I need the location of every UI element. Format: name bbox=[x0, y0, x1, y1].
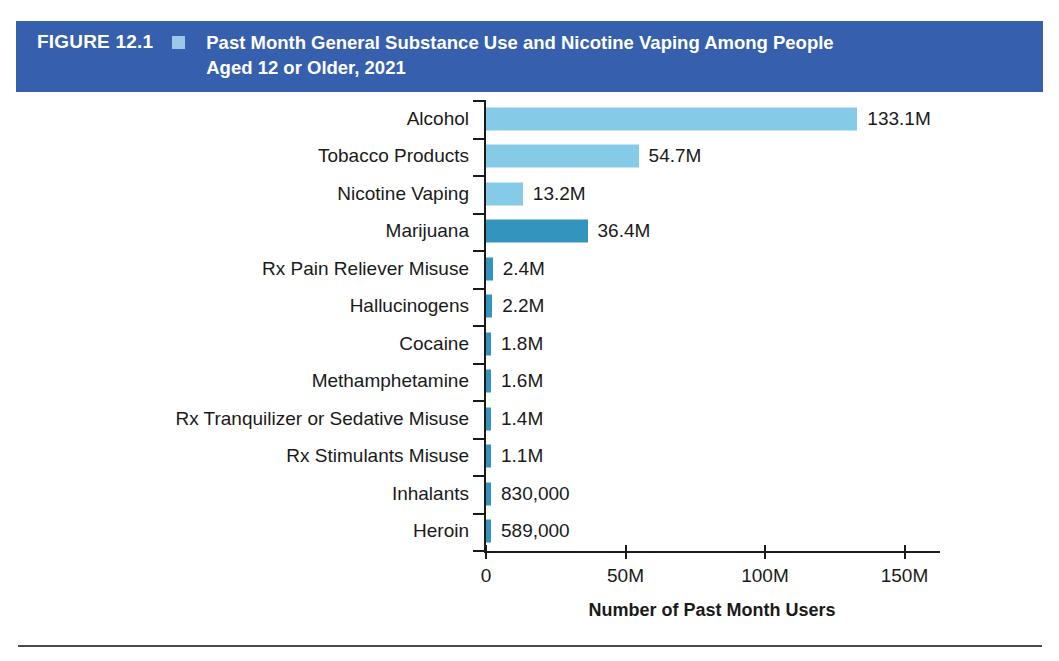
bar-row: Rx Stimulants Misuse1.1M bbox=[0, 438, 1059, 476]
category-label: Nicotine Vaping bbox=[337, 183, 469, 205]
bar bbox=[486, 145, 639, 168]
figure-title-line-1: Past Month General Substance Use and Nic… bbox=[206, 30, 833, 55]
bar-value-label: 2.2M bbox=[502, 295, 544, 317]
plot-area: Alcohol133.1MTobacco Products54.7MNicoti… bbox=[0, 95, 1059, 555]
bar-row: Cocaine1.8M bbox=[0, 325, 1059, 363]
category-label: Marijuana bbox=[386, 220, 469, 242]
bar-value-label: 54.7M bbox=[649, 145, 702, 167]
bar-row: Tobacco Products54.7M bbox=[0, 138, 1059, 176]
bar-row: Rx Pain Reliever Misuse2.4M bbox=[0, 250, 1059, 288]
bar bbox=[486, 182, 523, 205]
x-axis-tick-label: 0 bbox=[481, 565, 492, 587]
y-axis-tick bbox=[473, 363, 485, 365]
x-axis-tick bbox=[904, 545, 906, 559]
bar bbox=[486, 482, 491, 505]
x-axis-line bbox=[484, 551, 940, 553]
bar-row: Hallucinogens2.2M bbox=[0, 288, 1059, 326]
y-axis-tick bbox=[473, 175, 485, 177]
bar-value-label: 133.1M bbox=[867, 108, 930, 130]
banner-row: FIGURE 12.1 Past Month General Substance… bbox=[16, 30, 1043, 80]
y-axis-tick bbox=[473, 288, 485, 290]
bar-value-label: 13.2M bbox=[533, 183, 586, 205]
figure-title: Past Month General Substance Use and Nic… bbox=[206, 30, 833, 80]
bar-value-label: 2.4M bbox=[503, 258, 545, 280]
x-axis-tick-label: 50M bbox=[607, 565, 644, 587]
bar-value-label: 1.4M bbox=[501, 408, 543, 430]
category-label: Heroin bbox=[413, 520, 469, 542]
bar bbox=[486, 520, 491, 543]
category-label: Inhalants bbox=[392, 483, 469, 505]
bar bbox=[486, 370, 491, 393]
y-axis-tick bbox=[473, 475, 485, 477]
y-axis-tick bbox=[473, 138, 485, 140]
category-label: Tobacco Products bbox=[318, 145, 469, 167]
bar bbox=[486, 295, 492, 318]
y-axis-tick bbox=[473, 100, 485, 102]
category-label: Alcohol bbox=[407, 108, 469, 130]
bar-row: Rx Tranquilizer or Sedative Misuse1.4M bbox=[0, 400, 1059, 438]
category-label: Rx Tranquilizer or Sedative Misuse bbox=[175, 408, 469, 430]
category-label: Rx Pain Reliever Misuse bbox=[262, 258, 469, 280]
figure-banner: FIGURE 12.1 Past Month General Substance… bbox=[16, 21, 1043, 92]
bar-row: Inhalants830,000 bbox=[0, 475, 1059, 513]
bar-row: Methamphetamine1.6M bbox=[0, 363, 1059, 401]
figure-number-label: FIGURE 12.1 bbox=[16, 30, 153, 53]
bar bbox=[486, 332, 491, 355]
x-axis-tick-label: 150M bbox=[881, 565, 929, 587]
x-axis-title: Number of Past Month Users bbox=[484, 600, 940, 621]
bar bbox=[486, 257, 493, 280]
category-label: Methamphetamine bbox=[312, 370, 469, 392]
bar-row: Nicotine Vaping13.2M bbox=[0, 175, 1059, 213]
category-label: Hallucinogens bbox=[350, 295, 469, 317]
bar-value-label: 1.6M bbox=[501, 370, 543, 392]
bar-chart: Alcohol133.1MTobacco Products54.7MNicoti… bbox=[0, 95, 1059, 595]
bar-row: Heroin589,000 bbox=[0, 513, 1059, 551]
y-axis-tick bbox=[473, 213, 485, 215]
bar-row: Marijuana36.4M bbox=[0, 213, 1059, 251]
x-axis-tick bbox=[764, 545, 766, 559]
bar bbox=[486, 407, 491, 430]
bar-value-label: 830,000 bbox=[501, 483, 570, 505]
bar bbox=[486, 445, 491, 468]
y-axis-tick bbox=[473, 400, 485, 402]
footer-divider bbox=[18, 645, 1042, 647]
y-axis-tick bbox=[473, 325, 485, 327]
bar-value-label: 1.1M bbox=[501, 445, 543, 467]
bar-row: Alcohol133.1M bbox=[0, 100, 1059, 138]
square-marker-icon bbox=[172, 36, 185, 49]
x-axis-tick-label: 100M bbox=[741, 565, 789, 587]
y-axis-tick bbox=[473, 513, 485, 515]
x-axis-tick bbox=[625, 545, 627, 559]
category-label: Rx Stimulants Misuse bbox=[286, 445, 469, 467]
bar-value-label: 1.8M bbox=[501, 333, 543, 355]
bar bbox=[486, 220, 588, 243]
y-axis-tick bbox=[473, 550, 485, 552]
bar-value-label: 589,000 bbox=[501, 520, 570, 542]
x-axis-tick bbox=[485, 545, 487, 559]
category-label: Cocaine bbox=[399, 333, 469, 355]
bar-value-label: 36.4M bbox=[598, 220, 651, 242]
y-axis-tick bbox=[473, 438, 485, 440]
y-axis-tick bbox=[473, 250, 485, 252]
figure-title-line-2: Aged 12 or Older, 2021 bbox=[206, 55, 833, 80]
bar bbox=[486, 107, 857, 130]
